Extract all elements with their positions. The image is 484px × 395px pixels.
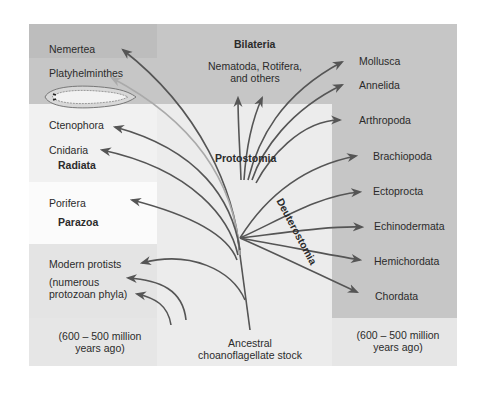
time-right-line2: years ago) (338, 341, 458, 353)
time-left-line1: (600 – 500 million (40, 330, 160, 342)
group-label-parazoa: Parazoa (58, 216, 98, 228)
taxon-cnidaria: Cnidaria (49, 144, 88, 156)
taxon-platyhelminthes: Platyhelminthes (49, 67, 123, 79)
parazoa-panel (29, 182, 157, 244)
root-line2: choanoflagellate stock (185, 349, 315, 361)
time-label-right: (600 – 500 million years ago) (338, 329, 458, 353)
root-label: Ancestral choanoflagellate stock (185, 337, 315, 361)
root-line1: Ancestral (185, 337, 315, 349)
nematoda-line2: and others (195, 72, 315, 84)
time-left-line2: years ago) (40, 342, 160, 354)
taxon-modern-protists: Modern protists (49, 258, 121, 270)
taxon-ectoprocta: Ectoprocta (373, 185, 423, 197)
taxon-nemertea: Nemertea (49, 43, 95, 55)
taxon-ctenophora: Ctenophora (49, 119, 104, 131)
taxon-mollusca: Mollusca (359, 55, 400, 67)
protist-note-line2: protozoan phyla) (49, 288, 127, 300)
taxon-brachiopoda: Brachiopoda (373, 150, 432, 162)
taxon-hemichordata: Hemichordata (374, 255, 439, 267)
taxon-arthropoda: Arthropoda (359, 114, 411, 126)
nematoda-line1: Nematoda, Rotifera, (195, 60, 315, 72)
group-label-bilateria: Bilateria (234, 38, 275, 50)
taxon-annelida: Annelida (359, 79, 400, 91)
time-label-left: (600 – 500 million years ago) (40, 330, 160, 354)
group-label-protostomia: Protostomia (215, 152, 276, 164)
group-label-radiata: Radiata (58, 159, 96, 171)
deuterostome-panel (332, 24, 457, 318)
taxon-echinodermata: Echinodermata (374, 220, 445, 232)
protist-note-line1: (numerous (49, 276, 99, 288)
time-right-line1: (600 – 500 million (338, 329, 458, 341)
taxon-porifera: Porifera (49, 197, 86, 209)
taxon-chordata: Chordata (375, 290, 418, 302)
nematoda-label: Nematoda, Rotifera, and others (195, 60, 315, 84)
